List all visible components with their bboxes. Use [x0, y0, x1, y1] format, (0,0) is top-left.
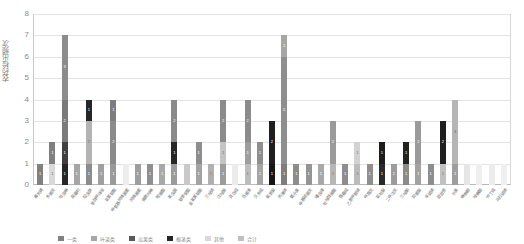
x-label-cell: 氟苯脲 — [266, 187, 278, 233]
bar-column: 11 — [46, 15, 58, 185]
bar-segment — [464, 164, 470, 185]
x-label-cell: 氟虫腈 — [168, 187, 180, 233]
bar-stack: 1 — [428, 164, 434, 185]
bar-stack — [123, 164, 129, 185]
x-label-cell: 戊唑醇 — [217, 187, 229, 233]
bar-segment: 1 — [196, 142, 202, 163]
bar-stack: 11 — [196, 142, 202, 185]
bar-column: 12 — [412, 15, 424, 185]
x-label-cell: 吡虫啉 — [58, 187, 70, 233]
bar-stack — [184, 164, 190, 185]
bar-column — [498, 15, 510, 185]
x-label-cell: 氧乐果 — [290, 187, 302, 233]
bar-segment: 1 — [452, 164, 458, 185]
y-tick-label: 8 — [0, 10, 29, 18]
bar-segment: 1 — [196, 164, 202, 185]
x-label-cell: 烯酰吗啉 — [144, 187, 156, 233]
bar-stack: 1123 — [62, 35, 68, 185]
bar-segment: 1 — [379, 164, 385, 185]
bar-segment: 1 — [245, 142, 251, 163]
bar-stack — [464, 164, 470, 185]
x-tick-label: 敌敌畏 — [436, 187, 447, 200]
bar-segment: 1 — [367, 164, 373, 185]
x-label-cell: 氯吡脲 — [376, 187, 388, 233]
x-tick-label: 咪鲜胺 — [460, 187, 471, 200]
y-tick-label: 3 — [0, 117, 29, 125]
x-tick-label: 氧乐果 — [289, 187, 300, 200]
bar-column — [180, 15, 192, 185]
bar-segment: 1 — [257, 164, 263, 185]
bar-stack: 112 — [220, 100, 226, 186]
bar-segment: 3 — [62, 35, 68, 99]
bar-column: 12 — [327, 15, 339, 185]
bar-stack — [476, 164, 482, 185]
x-label-cell: 腐霉利 — [71, 187, 83, 233]
bar-column: 1 — [144, 15, 156, 185]
bar-stack: 112 — [245, 100, 251, 186]
x-tick-label: 甲霜灵 — [363, 187, 374, 200]
y-tick-label: 4 — [0, 96, 29, 104]
bar-segment: 1 — [171, 164, 177, 185]
x-tick-label: 戊唑醇 — [216, 187, 227, 200]
bar-segment: 1 — [110, 164, 116, 185]
bar-column: 1 — [388, 15, 400, 185]
bar-stack: 121 — [86, 100, 92, 186]
y-tick-label: 7 — [0, 31, 29, 39]
legend-label: 其他 — [214, 236, 224, 242]
y-tick-label: 5 — [0, 74, 29, 82]
bar-stack: 1 — [208, 164, 214, 185]
bar-segment — [184, 164, 190, 185]
bar-stack: 12 — [440, 121, 446, 185]
bar-column: 12 — [437, 15, 449, 185]
bar-stack: 1 — [367, 164, 373, 185]
bar-segment: 1 — [245, 164, 251, 185]
bar-segment: 2 — [269, 121, 275, 164]
bar-segment: 2 — [220, 100, 226, 143]
legend-item: 其他 — [205, 233, 224, 244]
x-label-cell: 甲霜灵 — [363, 187, 375, 233]
bar-segment: 2 — [86, 121, 92, 164]
legend-swatch — [129, 236, 135, 241]
x-tick-label: 三唑磷 — [204, 187, 215, 200]
bar-segment — [476, 164, 482, 185]
x-label-cell: 灭多威 — [254, 187, 266, 233]
x-label-cell: 百菌清 — [241, 187, 253, 233]
x-label-cell: 啶虫脒 — [83, 187, 95, 233]
bar-stack: 1 — [159, 164, 165, 185]
bar-column: 112 — [168, 15, 180, 185]
bar-stack: 1 — [293, 164, 299, 185]
x-label-cell: 克百威 — [229, 187, 241, 233]
bar-stack: 1 — [135, 164, 141, 185]
bar-stack: 1 — [98, 164, 104, 185]
chart-legend: 一类叶菜类瓜果类根茎类其他合计 — [58, 233, 458, 244]
bar-segment: 1 — [147, 164, 153, 185]
legend-item: 一类 — [58, 233, 77, 244]
bar-segment: 1 — [415, 164, 421, 185]
x-label-cell: 毒死蜱 — [34, 187, 46, 233]
y-tick-label: 0 — [0, 181, 29, 189]
bar-column — [119, 15, 131, 185]
bar-stack: 12 — [330, 121, 336, 185]
bar-segment: 1 — [354, 164, 360, 185]
x-label-cell: 三唑磷 — [205, 187, 217, 233]
bar-segment: 2 — [440, 121, 446, 164]
bar-column: 1 — [34, 15, 46, 185]
x-tick-label: 毒死蜱 — [33, 187, 44, 200]
x-tick-label: 霜霉威 — [338, 187, 349, 200]
legend-item: 根茎类 — [167, 233, 191, 244]
legend-swatch — [167, 236, 173, 241]
bar-stack: 1 — [342, 164, 348, 185]
legend-swatch — [58, 236, 64, 241]
stacked-bar-chart: 农药检出频次 012345678 11111231121112111111211… — [0, 0, 524, 244]
bar-column: 112 — [241, 15, 253, 185]
y-tick-label: 1 — [0, 160, 29, 168]
x-tick-label: 辛硫磷 — [424, 187, 435, 200]
legend-swatch — [205, 236, 211, 241]
bar-segment: 1 — [74, 164, 80, 185]
bar-segment — [232, 164, 238, 185]
x-tick-label: 乐果 — [450, 187, 459, 196]
legend-label: 叶菜类 — [100, 236, 115, 242]
bar-segment — [489, 164, 495, 185]
bar-column: 1123 — [58, 15, 70, 185]
bar-stack: 11 — [354, 142, 360, 185]
